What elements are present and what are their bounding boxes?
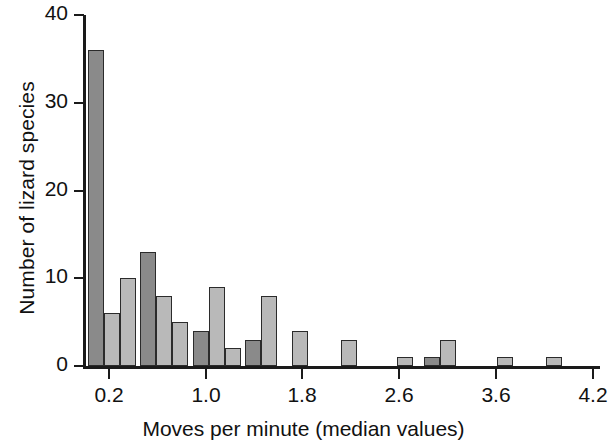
x-axis-title: Moves per minute (median values) — [0, 417, 607, 441]
y-tick-mark — [74, 14, 84, 16]
x-tick-mark — [108, 369, 110, 379]
y-tick-mark — [74, 190, 84, 192]
x-tick-label: 1.8 — [272, 383, 332, 407]
histogram-bar — [104, 313, 120, 366]
x-tick-label: 4.2 — [563, 383, 612, 407]
y-tick-mark — [74, 277, 84, 279]
histogram-bar — [397, 357, 413, 366]
y-tick-label: 10 — [16, 264, 68, 288]
x-tick-label: 2.6 — [369, 383, 429, 407]
histogram-bar — [120, 278, 136, 366]
x-tick-label: 3.6 — [466, 383, 526, 407]
histogram-bar — [497, 357, 513, 366]
histogram-bar — [546, 357, 562, 366]
x-tick-mark — [301, 369, 303, 379]
histogram-bar — [156, 296, 172, 366]
histogram-bar — [424, 357, 440, 366]
histogram-bar — [245, 340, 261, 366]
histogram-bar — [172, 322, 188, 366]
x-tick-mark — [398, 369, 400, 379]
x-tick-mark — [592, 369, 594, 379]
histogram-bar — [140, 252, 156, 366]
histogram-bar — [193, 331, 209, 366]
y-tick-label: 20 — [16, 177, 68, 201]
x-axis-line — [83, 366, 600, 369]
x-tick-mark — [205, 369, 207, 379]
histogram-bar — [261, 296, 277, 366]
y-tick-mark — [74, 102, 84, 104]
histogram-bar — [225, 348, 241, 366]
histogram-bar — [440, 340, 456, 366]
histogram-bar — [292, 331, 308, 366]
y-tick-label: 0 — [16, 352, 68, 376]
histogram-bar — [341, 340, 357, 366]
x-tick-mark — [495, 369, 497, 379]
x-tick-label: 1.0 — [176, 383, 236, 407]
x-tick-label: 0.2 — [79, 383, 139, 407]
y-tick-label: 40 — [16, 1, 68, 25]
y-tick-label: 30 — [16, 89, 68, 113]
histogram-bar — [88, 50, 104, 366]
histogram-bar — [209, 287, 225, 366]
